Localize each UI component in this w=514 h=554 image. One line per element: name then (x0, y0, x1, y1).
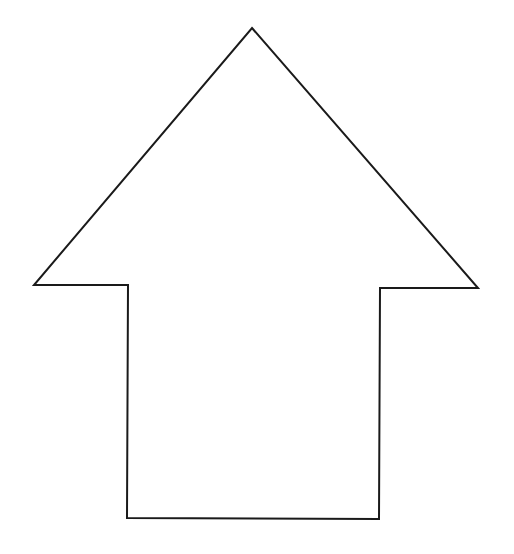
diagram-canvas (0, 0, 514, 554)
up-arrow-shape (34, 28, 478, 519)
